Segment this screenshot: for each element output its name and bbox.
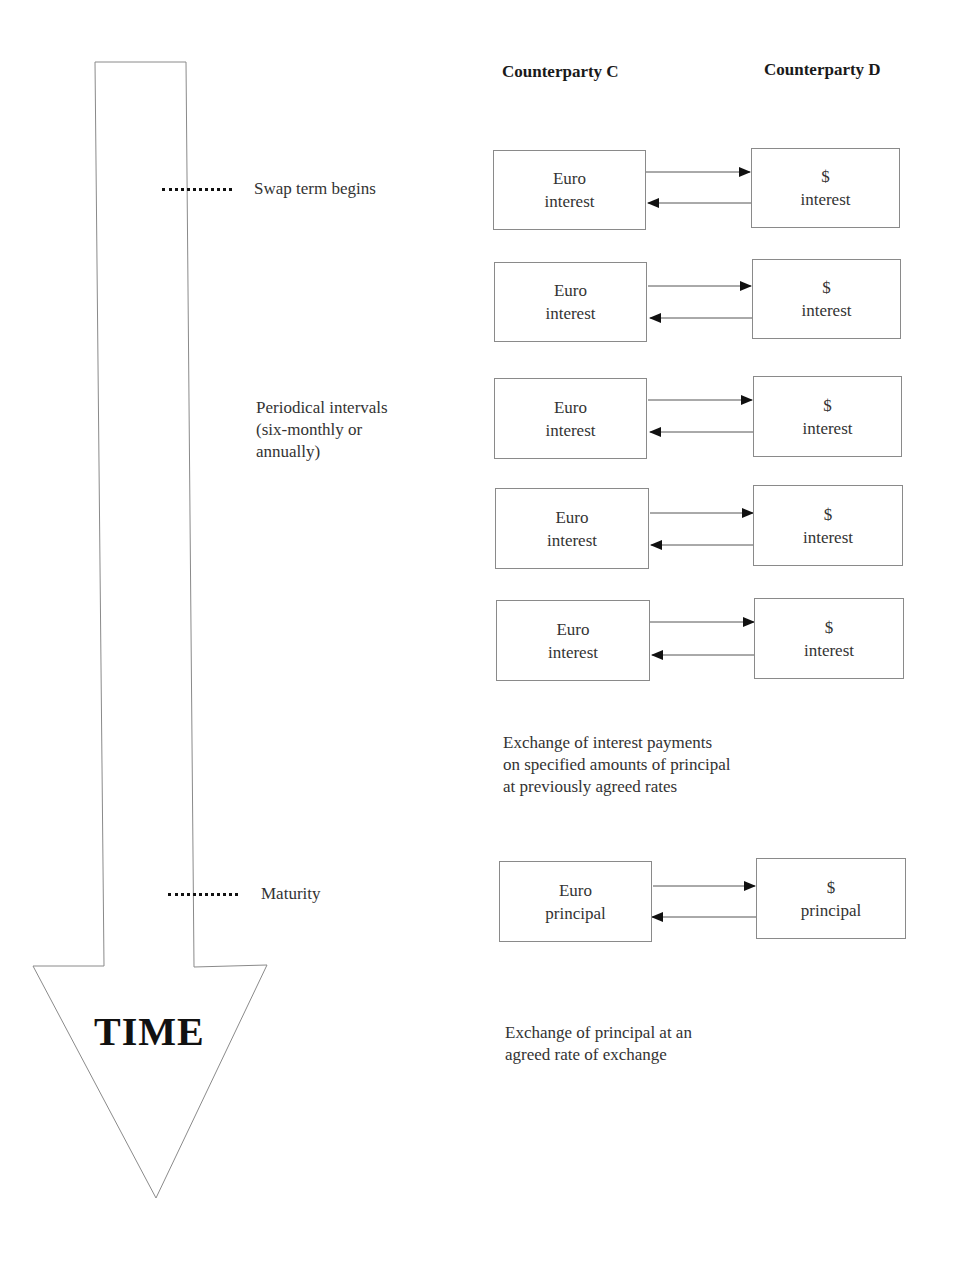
box-line: Euro [554,279,587,302]
box-line: Euro [553,167,586,190]
dollar-interest-box: $ interest [753,376,902,457]
interest-exchange-note: Exchange of interest payments on specifi… [503,732,731,798]
box-line: interest [544,190,594,213]
box-line: $ [824,503,833,526]
box-line: interest [804,639,854,662]
box-line: interest [545,302,595,325]
note-line: on specified amounts of principal [503,754,731,776]
box-line: Euro [554,396,587,419]
euro-interest-box: Euro interest [496,600,650,681]
counterparty-c-header: Counterparty C [502,62,619,82]
note-line: Exchange of interest payments [503,732,731,754]
principal-exchange-note: Exchange of principal at an agreed rate … [505,1022,692,1066]
counterparty-d-header: Counterparty D [764,60,881,80]
time-label: TIME [94,1008,205,1055]
note-line: at previously agreed rates [503,776,731,798]
marker-periodical-intervals: Periodical intervals (six-monthly or ann… [256,397,388,463]
box-line: $ [827,876,836,899]
dollar-interest-box: $ interest [754,598,904,679]
box-line: interest [548,641,598,664]
box-line: interest [800,188,850,211]
box-line: $ [821,165,830,188]
dollar-interest-box: $ interest [753,485,903,566]
box-line: interest [545,419,595,442]
box-line: Euro [559,879,592,902]
box-line: interest [547,529,597,552]
marker-dotted-line [168,893,238,896]
box-line: Euro [556,618,589,641]
marker-line: (six-monthly or [256,419,388,441]
box-line: $ [822,276,831,299]
box-line: principal [801,899,861,922]
box-line: principal [545,902,605,925]
euro-interest-box: Euro interest [494,378,647,459]
box-line: interest [802,417,852,440]
box-line: $ [825,616,834,639]
box-line: $ [823,394,832,417]
box-line: Euro [555,506,588,529]
dollar-interest-box: $ interest [752,259,901,339]
marker-dotted-line [162,188,232,191]
dollar-principal-box: $ principal [756,858,906,939]
dollar-interest-box: $ interest [751,148,900,228]
box-line: interest [803,526,853,549]
marker-swap-begins: Swap term begins [254,178,376,200]
box-line: interest [801,299,851,322]
marker-line: Periodical intervals [256,397,388,419]
marker-line: annually) [256,441,388,463]
euro-interest-box: Euro interest [494,262,647,342]
note-line: agreed rate of exchange [505,1044,692,1066]
euro-principal-box: Euro principal [499,861,652,942]
exchange-arrows [646,172,756,917]
note-line: Exchange of principal at an [505,1022,692,1044]
euro-interest-box: Euro interest [493,150,646,230]
euro-interest-box: Euro interest [495,488,649,569]
marker-maturity: Maturity [261,883,321,905]
